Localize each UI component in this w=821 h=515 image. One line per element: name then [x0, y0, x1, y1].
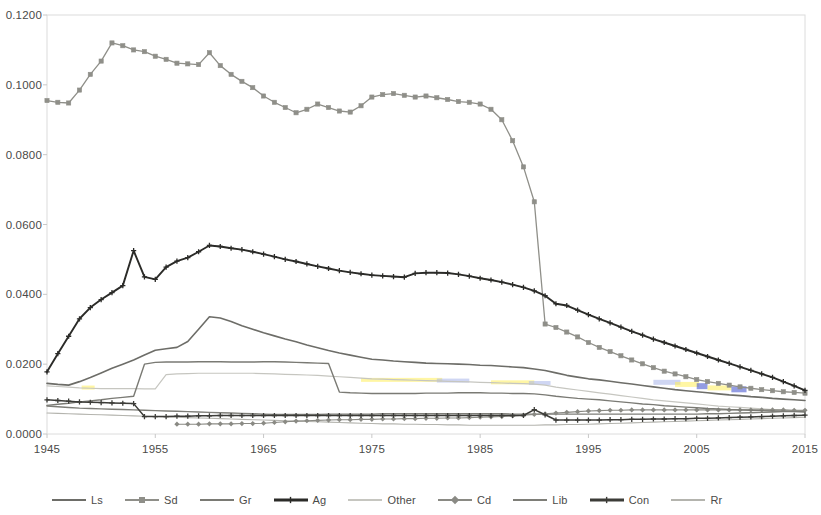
data-point	[186, 62, 190, 66]
data-point	[207, 421, 212, 426]
data-point	[575, 307, 580, 312]
data-point	[370, 95, 374, 99]
data-point	[348, 110, 352, 114]
data-point	[121, 44, 125, 48]
legend-item-sd[interactable]: Sd	[125, 494, 178, 506]
data-point	[348, 270, 353, 275]
data-point	[175, 61, 179, 65]
legend-item-lib[interactable]: Lib	[513, 494, 567, 506]
data-point	[272, 100, 276, 104]
data-point	[597, 316, 602, 321]
x-tick-label: 1985	[467, 443, 493, 455]
data-point	[575, 417, 580, 422]
data-point	[142, 50, 146, 54]
data-point	[467, 274, 472, 279]
data-point	[369, 273, 374, 278]
highlight-mark	[675, 382, 699, 387]
data-point	[488, 277, 493, 282]
data-point	[543, 322, 547, 326]
data-point	[358, 271, 363, 276]
line-swatch-icon	[52, 494, 86, 506]
legend-item-ag[interactable]: Ag	[274, 494, 327, 506]
data-point	[229, 72, 233, 76]
data-point	[293, 413, 298, 418]
data-point	[673, 372, 677, 376]
data-point	[435, 96, 439, 100]
legend-item-ls[interactable]: Ls	[52, 494, 103, 506]
legend-item-rr[interactable]: Rr	[671, 494, 722, 506]
data-point	[695, 377, 699, 381]
data-point	[738, 385, 742, 389]
data-point	[185, 422, 190, 427]
data-point	[77, 399, 82, 404]
diamond-marker-icon	[451, 496, 459, 504]
data-point	[434, 270, 439, 275]
data-point	[305, 107, 309, 111]
data-point	[413, 271, 418, 276]
data-point	[120, 401, 125, 406]
data-point	[792, 383, 797, 388]
series-ls	[47, 317, 805, 401]
data-point	[618, 325, 623, 330]
data-point	[467, 100, 471, 104]
plot-border	[47, 15, 805, 434]
line-swatch-icon	[200, 494, 234, 506]
line-swatch-icon	[348, 494, 382, 506]
data-point	[651, 407, 656, 412]
data-point	[45, 98, 49, 102]
data-point	[619, 354, 623, 358]
data-point	[207, 51, 211, 55]
data-point	[629, 407, 634, 412]
data-point	[489, 107, 493, 111]
data-point	[109, 400, 114, 405]
line-chart: 0.12000.10000.08000.06000.04000.02000.00…	[0, 0, 821, 515]
legend-item-con[interactable]: Con	[590, 494, 650, 506]
data-point	[576, 335, 580, 339]
data-point	[672, 343, 677, 348]
data-point	[499, 280, 504, 285]
line-swatch-icon	[274, 494, 308, 506]
data-point	[99, 59, 103, 63]
data-point	[402, 93, 406, 97]
legend-item-other[interactable]: Other	[348, 494, 416, 506]
data-point	[304, 418, 309, 423]
data-point	[88, 72, 92, 76]
x-tick-label: 1975	[359, 443, 385, 455]
data-point	[586, 408, 591, 413]
legend-item-cd[interactable]: Cd	[438, 494, 491, 506]
data-point	[99, 400, 104, 405]
data-point	[781, 390, 785, 394]
data-point	[618, 408, 623, 413]
data-point	[164, 414, 169, 419]
highlight-mark	[697, 383, 708, 389]
data-point	[662, 369, 666, 373]
data-point	[737, 364, 742, 369]
data-point	[293, 259, 298, 264]
data-point	[67, 101, 71, 105]
legend-label: Lib	[552, 494, 567, 506]
data-point	[316, 102, 320, 106]
data-point	[716, 407, 721, 412]
data-point	[705, 380, 709, 384]
data-point	[391, 91, 395, 95]
data-point	[597, 408, 602, 413]
legend-item-gr[interactable]: Gr	[200, 494, 252, 506]
line-swatch-icon	[438, 494, 472, 506]
data-point	[337, 109, 341, 113]
x-tick-label: 1955	[142, 443, 168, 455]
data-point	[304, 261, 309, 266]
data-point	[683, 416, 688, 421]
data-point	[662, 340, 667, 345]
data-point	[521, 165, 525, 169]
data-point	[251, 86, 255, 90]
data-point	[640, 407, 645, 412]
data-point	[553, 410, 558, 415]
data-point	[294, 111, 298, 115]
data-point	[532, 200, 536, 204]
series-line	[47, 245, 805, 390]
data-point	[749, 386, 753, 390]
data-point	[250, 421, 255, 426]
data-point	[142, 274, 147, 279]
data-point	[359, 104, 363, 108]
data-point	[456, 99, 460, 103]
